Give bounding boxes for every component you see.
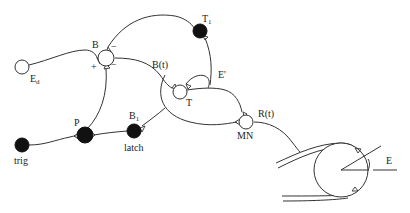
node-trig [15,138,29,152]
node-t1 [193,24,207,38]
wire-mn-to-muscle [254,122,300,152]
wire-b1-to-loop [142,108,165,126]
muscle-strand-bottom-2 [283,198,348,201]
eye-muscle [276,143,397,201]
wire-ed-to-b [29,50,97,65]
label-t: T [186,97,192,108]
label-latch: latch [124,142,143,153]
label-eprime: E' [218,69,226,80]
node-b1 [127,124,141,138]
neural-circuit-diagram: Ed B + − − T1 B(t) E' T MN R(t) trig P B… [0,0,410,213]
wire-t-to-mn [187,88,242,112]
wire-b-to-p [88,68,106,128]
label-t1: T1 [202,13,212,26]
label-bt: B(t) [152,59,168,71]
wire-trig-to-p [29,136,76,145]
label-b-minus-top: − [111,41,117,52]
label-mn: MN [237,130,253,141]
label-e: E [386,155,392,166]
label-b: B [92,39,99,50]
wire-t-loop-top [186,75,209,88]
node-p [77,127,93,143]
eye-arc [368,159,370,170]
label-trig: trig [14,155,28,166]
label-rt: R(t) [258,108,274,120]
label-b-plus-sign: + [91,61,97,72]
wire-loop-outer [161,75,237,125]
label-ed: Ed [30,73,40,86]
label-b1: B1 [129,110,140,123]
wire-p-to-b1 [94,131,127,135]
node-t [173,85,187,99]
node-mn [239,115,253,129]
node-ed [15,60,29,74]
synapse-t-right [186,84,191,89]
wire-b-to-t1 [108,15,194,47]
label-b-minus-bottom: − [111,59,117,70]
label-p: P [74,117,80,128]
